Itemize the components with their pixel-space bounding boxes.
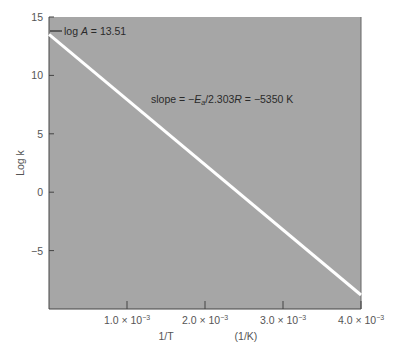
chart: 151050−5 1.0 × 10−32.0 × 10−33.0 × 10−34… (0, 0, 405, 358)
x-tick-label: 2.0 × 10−3 (182, 314, 228, 326)
x-axis-unit: (1/K) (235, 330, 258, 342)
x-tick-label: 4.0 × 10−3 (338, 314, 384, 326)
y-tick-label: 15 (31, 11, 43, 23)
intercept-annotation: log A = 13.51 (64, 25, 126, 37)
y-tick-label: 5 (37, 128, 43, 140)
y-tick-label: 0 (37, 186, 43, 198)
x-tick-label: 3.0 × 10−3 (260, 314, 306, 326)
y-axis-label-log: Log k (14, 149, 26, 175)
y-axis-label: Log k (14, 149, 26, 175)
y-tick-label: 10 (31, 69, 43, 81)
y-tick-label: −5 (31, 245, 43, 257)
x-axis-label: 1/T (158, 330, 174, 342)
x-tick-label: 1.0 × 10−3 (104, 314, 150, 326)
slope-annotation: slope = −Ea/2.303R = −5350 K (151, 93, 293, 106)
